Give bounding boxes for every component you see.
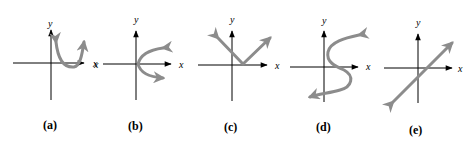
caption-e: (e) [409,123,422,137]
caption-c: (c) [224,120,237,134]
x-axis-label: x [457,63,463,74]
panel-d: y x (d) [290,15,371,134]
panel-c: y x (c) [198,14,280,134]
x-axis-label: x [274,60,280,71]
s-curve [310,35,359,97]
x-axis-label-left: x [93,59,99,70]
panel-a: y x (a) [13,18,98,132]
parabola-curve [138,48,163,78]
caption-b: (b) [128,119,143,133]
y-axis-label: y [133,14,139,25]
caption-d: (d) [316,120,331,134]
absolute-value-curve [218,38,270,64]
y-axis-label: y [229,14,235,25]
line-curve [393,43,452,102]
graphs-figure: y x (a) y x x (b) y x (c) y x (d) y x (e [0,0,468,141]
x-axis-label: x [178,59,184,70]
panel-e: y x (e) [384,17,463,137]
x-axis-label: x [365,61,371,72]
y-axis-label: y [47,18,53,29]
panel-b: y x x (b) [93,14,184,133]
y-axis-label: y [415,17,421,28]
caption-a: (a) [43,118,57,132]
y-axis-label: y [321,15,327,26]
